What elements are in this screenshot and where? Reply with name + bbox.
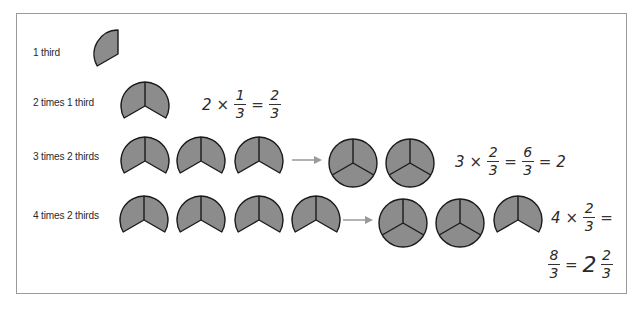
eq-whole-number: 3 <box>453 153 467 171</box>
row-2-equation: 2 × 1 3 = 2 3 <box>200 88 283 121</box>
whole-pie-icon <box>379 199 427 247</box>
times-sign: × <box>214 96 233 114</box>
two-thirds-piece-icon <box>177 196 225 232</box>
two-thirds-piece-icon <box>292 196 340 232</box>
equals-sign: = <box>536 153 555 171</box>
times-sign: × <box>563 209 582 227</box>
two-thirds-piece-icon <box>121 82 169 118</box>
fraction: 2 3 <box>583 201 595 234</box>
arrow-right-icon <box>343 216 373 224</box>
equals-sign: = <box>597 209 616 227</box>
fraction: 8 3 <box>548 248 560 281</box>
two-thirds-piece-icon <box>235 137 283 173</box>
two-thirds-piece-icon <box>177 137 225 173</box>
fraction: 2 3 <box>269 88 281 121</box>
row-3-equation: 3 × 2 3 = 6 3 = 2 <box>453 145 568 178</box>
equals-sign: = <box>248 96 267 114</box>
two-thirds-piece-icon <box>235 196 283 232</box>
whole-pie-icon <box>386 139 434 187</box>
eq-whole-number: 4 <box>549 209 563 227</box>
mixed-number-whole: 2 <box>581 252 599 277</box>
arrow-right-icon <box>292 156 322 164</box>
equals-sign: = <box>501 153 520 171</box>
whole-pie-icon <box>329 139 377 187</box>
two-thirds-piece-icon <box>120 196 168 232</box>
mixed-number-fraction: 2 3 <box>601 248 613 281</box>
fraction: 2 3 <box>487 145 499 178</box>
times-sign: × <box>467 153 486 171</box>
eq-result: 2 <box>554 153 568 171</box>
whole-pie-icon <box>436 199 484 247</box>
two-thirds-piece-icon <box>494 196 542 232</box>
row-4-equation-line-2: 8 3 = 2 2 3 <box>546 248 615 281</box>
fraction: 6 3 <box>522 145 534 178</box>
diagram-canvas: 1 third 2 times 1 third 3 times 2 thirds… <box>0 0 635 309</box>
fraction: 1 3 <box>234 88 246 121</box>
two-thirds-piece-icon <box>121 137 169 173</box>
eq-whole-number: 2 <box>200 96 214 114</box>
row-4-equation-line-1: 4 × 2 3 = <box>549 201 616 234</box>
equals-sign: = <box>562 256 581 274</box>
one-third-piece-icon <box>94 30 118 66</box>
